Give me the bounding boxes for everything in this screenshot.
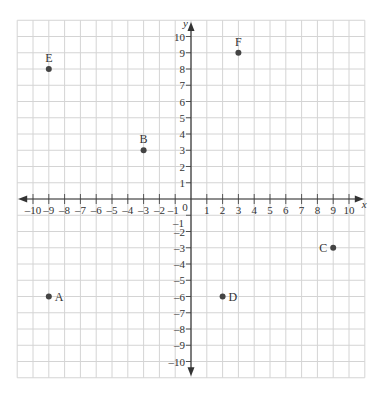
y-tick-label: 5: [180, 112, 186, 124]
x-tick-label: –10: [24, 204, 42, 216]
x-tick-label: –7: [74, 204, 87, 216]
x-tick-label: –6: [90, 204, 103, 216]
point-e: [46, 66, 52, 72]
point-label-b: B: [140, 132, 148, 146]
y-tick-label: –10: [168, 356, 186, 368]
y-tick-label: 8: [180, 63, 186, 75]
x-tick-label: 6: [283, 204, 289, 216]
x-tick-label: –1: [167, 204, 179, 216]
y-tick-label: 6: [180, 96, 186, 108]
tick-labels: xy–10–9–8–7–6–5–4–3–2–112345678910–10–9–…: [24, 17, 367, 367]
point-c: [330, 245, 336, 251]
x-tick-label: 4: [251, 204, 257, 216]
x-tick-label: 1: [204, 204, 210, 216]
y-tick-label: –3: [173, 242, 186, 254]
x-tick-label: 10: [344, 204, 356, 216]
axes: [18, 22, 364, 376]
x-tick-label: –4: [121, 204, 134, 216]
point-d: [220, 294, 226, 300]
y-tick-label: 1: [180, 177, 186, 189]
x-tick-label: –3: [137, 204, 150, 216]
arrow-left-icon: [18, 196, 27, 203]
x-tick-label: –5: [106, 204, 119, 216]
arrow-down-icon: [188, 367, 195, 376]
origin-label: 0: [182, 201, 188, 213]
x-tick-label: 7: [299, 204, 305, 216]
y-tick-label: 4: [180, 128, 186, 140]
point-label-f: F: [235, 35, 242, 49]
coordinate-plane: xy–10–9–8–7–6–5–4–3–2–112345678910–10–9–…: [0, 0, 382, 397]
y-tick-label: 10: [174, 31, 186, 43]
y-tick-label: 7: [180, 79, 186, 91]
point-b: [141, 147, 147, 153]
x-tick-label: –9: [42, 204, 55, 216]
x-tick-label: 2: [220, 204, 226, 216]
x-tick-label: –8: [58, 204, 71, 216]
x-tick-label: 8: [315, 204, 321, 216]
y-axis-label: y: [182, 17, 188, 29]
y-tick-label: –7: [173, 307, 186, 319]
y-tick-label: –1: [172, 217, 184, 229]
y-tick-label: 2: [180, 161, 186, 173]
y-tick-label: –4: [173, 258, 186, 270]
y-tick-label: –5: [173, 274, 186, 286]
x-tick-label: 3: [236, 204, 242, 216]
y-tick-label: –8: [173, 323, 186, 335]
point-f: [235, 50, 241, 56]
y-tick-label: 3: [180, 144, 186, 156]
x-axis-label: x: [361, 198, 367, 210]
point-label-a: A: [55, 290, 64, 304]
x-tick-label: 9: [330, 204, 336, 216]
x-tick-label: –2: [153, 204, 165, 216]
point-a: [46, 294, 52, 300]
y-tick-label: –9: [173, 339, 186, 351]
arrow-up-icon: [188, 22, 195, 31]
point-label-d: D: [229, 290, 238, 304]
point-label-e: E: [45, 51, 52, 65]
point-label-c: C: [319, 241, 327, 255]
y-tick-label: –6: [173, 291, 186, 303]
y-tick-label: 9: [180, 47, 186, 59]
x-tick-label: 5: [267, 204, 273, 216]
